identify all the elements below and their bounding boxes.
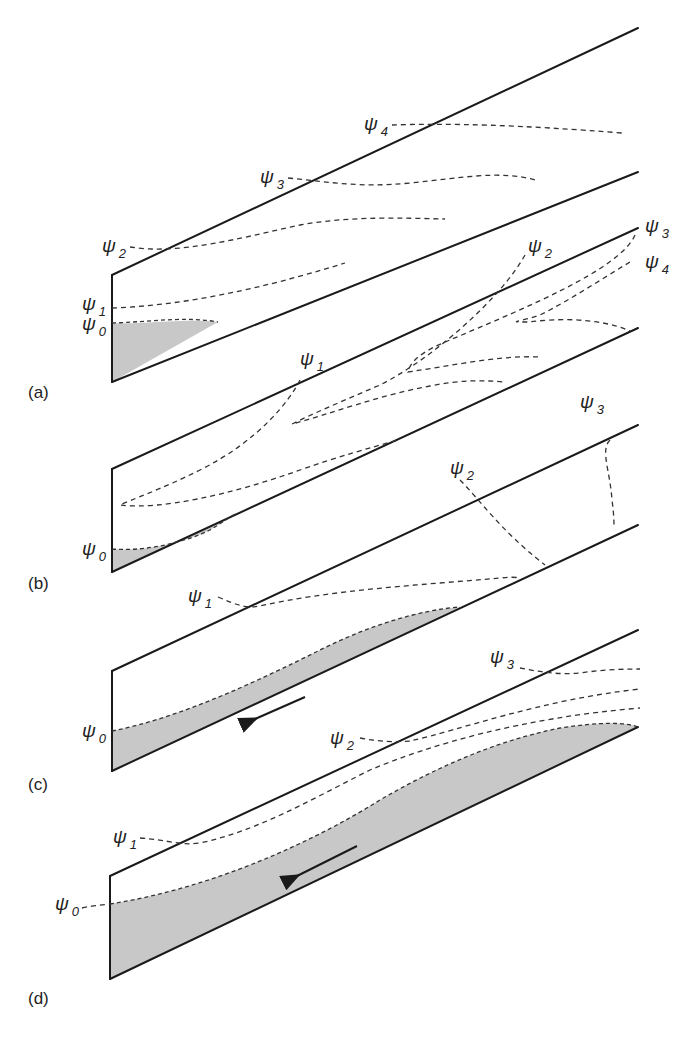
panel-a-lower-wall — [112, 172, 638, 382]
panel-a-shaded-layer — [112, 321, 218, 382]
panel-d-streamline-psi3 — [520, 668, 640, 674]
panel-d-psi0-leader — [82, 904, 110, 908]
panel-c-streamline-psi2 — [460, 480, 545, 565]
panel-a-label-psi2: ψ2 — [102, 235, 127, 261]
streamline-figure: ψ0 ψ1 ψ2 ψ3 ψ4 (a) ψ0 ψ1 ψ2 ψ3 ψ4 (b) ψ0 — [0, 0, 694, 1039]
panel-d-label-psi2: ψ2 — [330, 727, 355, 753]
panel-b-label-psi0: ψ0 — [82, 538, 107, 564]
panel-a-caption: (a) — [28, 383, 49, 402]
panel-c-label-psi2: ψ2 — [450, 457, 475, 483]
panel-d-label-psi3: ψ3 — [490, 646, 515, 672]
panel-a-label-psi3: ψ3 — [260, 166, 285, 192]
panel-b-streamline-psi2-lower — [292, 255, 525, 424]
panel-b-caption: (b) — [28, 574, 49, 593]
panel-d-label-psi1: ψ1 — [113, 826, 137, 852]
panel-c-label-psi3: ψ3 — [580, 391, 605, 417]
panel-d-lower-wall — [110, 727, 638, 979]
panel-a-streamline-psi1 — [112, 263, 345, 308]
panel-b-streamline-psi4 — [516, 262, 630, 331]
panel-b-label-psi2: ψ2 — [528, 235, 553, 261]
panel-c-label-psi1: ψ1 — [188, 585, 212, 611]
panel-d-caption: (d) — [28, 989, 49, 1008]
panel-c-caption: (c) — [28, 775, 48, 794]
panel-b-label-psi4: ψ4 — [645, 251, 669, 277]
panel-c-label-psi0: ψ0 — [82, 720, 107, 746]
panel-a-streamline-psi4 — [392, 124, 622, 133]
panel-c-streamline-psi3 — [606, 440, 614, 528]
panel-b-lower-wall — [112, 328, 638, 572]
panel-a-upper-wall — [112, 28, 638, 275]
panel-b-streamline-psi1 — [120, 380, 398, 506]
panel-b: ψ0 ψ1 ψ2 ψ3 ψ4 (b) — [28, 215, 670, 593]
panel-b-label-psi3: ψ3 — [645, 215, 670, 241]
panel-a: ψ0 ψ1 ψ2 ψ3 ψ4 (a) — [28, 28, 638, 402]
panel-b-streamline-psi3 — [408, 235, 635, 372]
panel-a-label-psi4: ψ4 — [364, 113, 388, 139]
panel-b-label-psi1: ψ1 — [300, 348, 324, 374]
panel-d-label-psi0: ψ0 — [55, 893, 80, 919]
panel-b-upper-wall — [112, 228, 638, 469]
panel-d: ψ0 ψ1 ψ2 ψ3 (d) — [28, 630, 640, 1008]
panel-a-streamline-psi3 — [288, 175, 535, 185]
